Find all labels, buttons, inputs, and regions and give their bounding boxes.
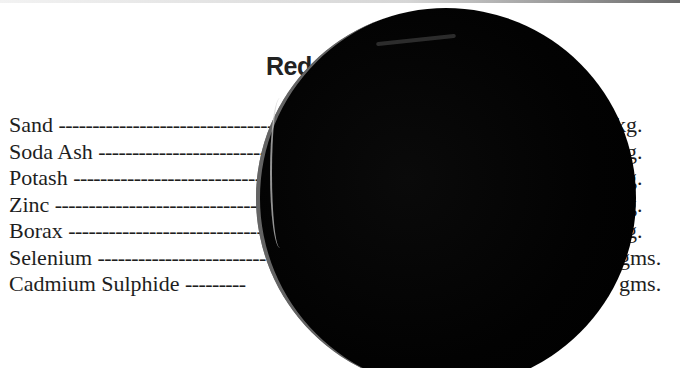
leader-dashes: --------------------------- — [98, 139, 280, 166]
ingredient-name: Cadmium Sulphide — [9, 271, 180, 298]
ingredient-name: Zinc — [9, 192, 49, 219]
leader-dashes: ----------------------------------- — [55, 192, 290, 219]
leader-dashes: ---------------------------------- — [59, 112, 288, 139]
ingredient-name: Sand — [9, 112, 53, 139]
ingredient-name: Potash — [9, 165, 68, 192]
leader-dashes: ------------------------------ — [68, 218, 270, 245]
ingredient-name: Selenium — [9, 245, 92, 272]
leader-dashes: --------- — [185, 271, 246, 298]
leader-dashes: ------------------------------ — [73, 165, 275, 192]
redaction-circle — [256, 8, 636, 368]
ingredient-unit: gms. — [619, 271, 661, 298]
top-border-rule — [0, 0, 680, 3]
recipe-page: Red Sand -------------------------------… — [0, 0, 680, 368]
ingredient-name: Soda Ash — [9, 139, 93, 166]
leader-dashes: ------------------------- — [98, 245, 266, 272]
ingredient-name: Borax — [9, 218, 63, 245]
